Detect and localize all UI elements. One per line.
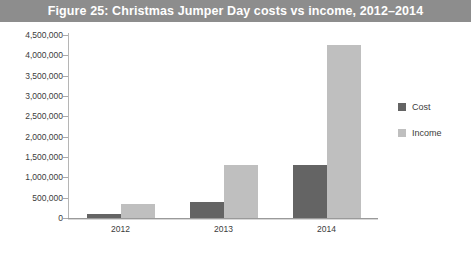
legend-item-cost[interactable]: Cost [398, 94, 468, 120]
y-axis-tick-label: 2,000,000 [0, 132, 63, 142]
x-axis-line [68, 218, 378, 219]
bar-group [172, 35, 275, 218]
y-axis-tick-label: 4,000,000 [0, 50, 63, 60]
legend-item-income[interactable]: Income [398, 120, 468, 146]
y-axis-tick-label: 4,500,000 [0, 30, 63, 40]
y-axis-tick-label: 0 [0, 213, 63, 223]
plot-area [69, 35, 378, 218]
x-axis-tick-label-2014: 2014 [317, 224, 336, 234]
bar-group [275, 35, 378, 218]
legend-label: Income [412, 128, 442, 138]
x-axis-tick-label-2012: 2012 [111, 224, 130, 234]
bar-group [69, 35, 172, 218]
x-axis: 201220132014 [69, 224, 378, 240]
figure-caption-bar: Figure 25: Christmas Jumper Day costs vs… [0, 0, 471, 22]
bar-cost-2014[interactable] [293, 165, 327, 218]
bar-income-2013[interactable] [224, 165, 258, 218]
bar-cost-2013[interactable] [190, 202, 224, 218]
chart-legend: CostIncome [398, 94, 468, 146]
y-axis-tick-label: 1,000,000 [0, 172, 63, 182]
y-axis-tick-label: 2,500,000 [0, 111, 63, 121]
square-swatch-icon [398, 103, 406, 111]
y-axis: 4,500,0004,000,0003,500,0003,000,0002,50… [0, 22, 63, 260]
y-axis-tick-label: 3,000,000 [0, 91, 63, 101]
bar-cost-2012[interactable] [87, 214, 121, 218]
square-swatch-icon [398, 129, 406, 137]
figure-title: Figure 25: Christmas Jumper Day costs vs… [48, 4, 423, 18]
bar-income-2014[interactable] [327, 45, 361, 218]
legend-label: Cost [412, 102, 431, 112]
y-axis-tick-label: 1,500,000 [0, 152, 63, 162]
y-axis-tick-label: 3,500,000 [0, 71, 63, 81]
y-axis-tick-label: 500,000 [0, 193, 63, 203]
x-axis-tick-label-2013: 2013 [214, 224, 233, 234]
bar-income-2012[interactable] [121, 204, 155, 218]
